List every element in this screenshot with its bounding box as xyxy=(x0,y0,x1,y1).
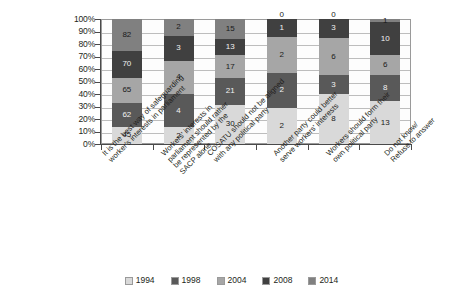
legend-item[interactable]: 2014 xyxy=(308,276,338,285)
legend-label: 2014 xyxy=(319,276,338,285)
legend-swatch-icon xyxy=(125,277,133,285)
legend-label: 1994 xyxy=(136,276,155,285)
legend-swatch-icon xyxy=(171,277,179,285)
legend-swatch-icon xyxy=(262,277,270,285)
legend-item[interactable]: 1994 xyxy=(125,276,155,285)
legend-swatch-icon xyxy=(308,277,316,285)
x-axis-category-labels: It is the best way of safeguarding worke… xyxy=(0,0,463,305)
chart-legend: 19941998200420082014 xyxy=(0,276,463,285)
x-axis-category-label: Do not know/ Refuse to answer xyxy=(383,110,437,164)
stacked-bar-chart: 100%90%80%70%60%50%40%30%20%10%0% 456265… xyxy=(0,0,463,305)
legend-label: 2008 xyxy=(273,276,292,285)
legend-swatch-icon xyxy=(217,277,225,285)
legend-label: 2004 xyxy=(228,276,247,285)
legend-label: 1998 xyxy=(182,276,201,285)
legend-item[interactable]: 1998 xyxy=(171,276,201,285)
legend-item[interactable]: 2008 xyxy=(262,276,292,285)
legend-item[interactable]: 2004 xyxy=(217,276,247,285)
